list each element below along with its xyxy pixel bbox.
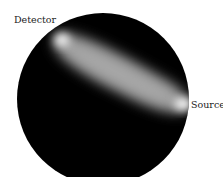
figure-canvas: Detector Source xyxy=(0,0,223,177)
source-hotspot xyxy=(174,97,192,111)
detector-label: Detector xyxy=(14,15,56,25)
photon-path-diagram xyxy=(0,0,223,177)
detector-hotspot xyxy=(54,33,70,47)
source-label: Source xyxy=(191,100,223,110)
